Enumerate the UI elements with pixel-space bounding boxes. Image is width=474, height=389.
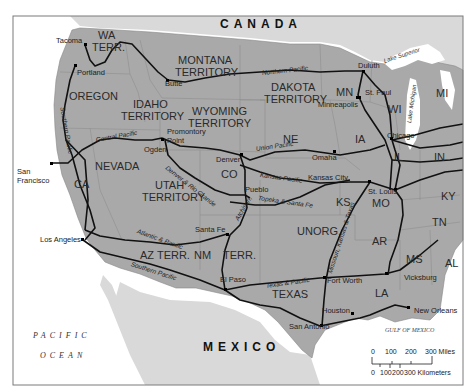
city-label-new-orleans: New Orleans (414, 307, 457, 315)
state-label-ca: CA (74, 179, 89, 190)
scale-miles-0: 0 (371, 348, 375, 355)
state-label-az: AZ TERR. (140, 250, 190, 261)
state-label-mo: MO (372, 198, 390, 209)
state-label-unorg: UNORG. (297, 226, 341, 237)
city-label-denver: Denver (216, 156, 240, 164)
scale-km-100: 100 (380, 369, 392, 376)
city-label-francisco: Francisco (17, 177, 50, 185)
city-label-omaha: Omaha (312, 154, 337, 162)
state-label-ar: AR (372, 236, 387, 247)
state-label-texas: TEXAS (272, 289, 308, 300)
state-label-nevada: NEVADA (95, 161, 139, 172)
city-label-fort-worth: Fort Worth (327, 277, 362, 285)
state-label-mi: MI (436, 88, 448, 99)
state-label-dakota: DAKOTA (271, 82, 315, 93)
city-label-st-louis: St. Louis (368, 188, 397, 196)
state-label-al: AL (445, 258, 458, 269)
city-label-santa-fe: Santa Fe (195, 226, 225, 234)
city-label-los-angeles: Los Angeles (40, 236, 81, 244)
city-label-pueblo: Pueblo (245, 186, 268, 194)
scale-miles-100: 100 (385, 348, 397, 355)
state-label-montana-territory: TERRITORY (175, 67, 238, 78)
railroad-map: CANADA MEXICO PACIFIC OCEAN GULF OF MEXI… (0, 0, 474, 389)
city-label-promontory: Promontory (167, 128, 206, 136)
ocean-label-ocean: OCEAN (40, 352, 86, 360)
city-label-kansas-city: Kansas City (308, 174, 348, 182)
state-label-nm: NM (194, 250, 211, 261)
state-label-co: CO (221, 169, 238, 180)
city-label-duluth: Duluth (358, 62, 380, 70)
city-label-butte: Butte (165, 80, 183, 88)
state-label-mn: MN (336, 87, 353, 98)
state-label-il: IL (394, 152, 403, 163)
state-label-montana: MONTANA (178, 55, 232, 66)
scale-miles-300: 300 Miles (425, 348, 455, 355)
city-label-vicksburg: Vicksburg (404, 274, 437, 282)
scale-km-300: 300 Kilometers (404, 369, 451, 376)
city-label-st-paul: St. Paul (365, 89, 391, 97)
city-label-minneapolis: Minneapolis (318, 101, 358, 109)
scale-km-0: 0 (371, 369, 375, 376)
state-label-tn: TN (432, 217, 447, 228)
state-label-idaho: IDAHO (133, 99, 168, 110)
country-label-canada: CANADA (220, 18, 302, 30)
state-label-in: IN (434, 152, 445, 163)
city-label-ogden: Ogden (144, 146, 167, 154)
scale-miles-200: 200 (405, 348, 417, 355)
ocean-label-pacific: PACIFIC (33, 332, 91, 340)
city-label-san-antonio: San Antonio (289, 323, 329, 331)
state-label-idaho-territory: TERRITORY (121, 111, 184, 122)
state-label-wi: WI (388, 104, 401, 115)
gulf-of-mexico-label: GULF OF MEXICO (385, 327, 434, 333)
city-label-el-paso: El Paso (220, 276, 246, 284)
country-label-mexico: MEXICO (203, 341, 280, 353)
city-label-chicago: Chicago (387, 132, 415, 140)
state-label-la: LA (375, 288, 388, 299)
state-label-wa-terr: TERR. (92, 42, 125, 53)
state-label-ky: KY (441, 191, 456, 202)
city-label-san: San (17, 168, 30, 176)
state-label-nm-terr: TERR. (223, 250, 256, 261)
city-label-houston: Houston (322, 307, 350, 315)
city-label-promontory-point: Point (167, 137, 184, 145)
state-label-ia: IA (355, 134, 365, 145)
city-label-portland: Portland (77, 69, 105, 77)
city-label-tacoma: Tacoma (56, 37, 82, 45)
state-label-ms: MS (406, 254, 423, 265)
state-label-wa: WA (98, 30, 115, 41)
state-label-wyoming: WYOMING (192, 106, 247, 117)
state-label-oregon: OREGON (69, 91, 118, 102)
scale-km-200: 200 (392, 369, 404, 376)
